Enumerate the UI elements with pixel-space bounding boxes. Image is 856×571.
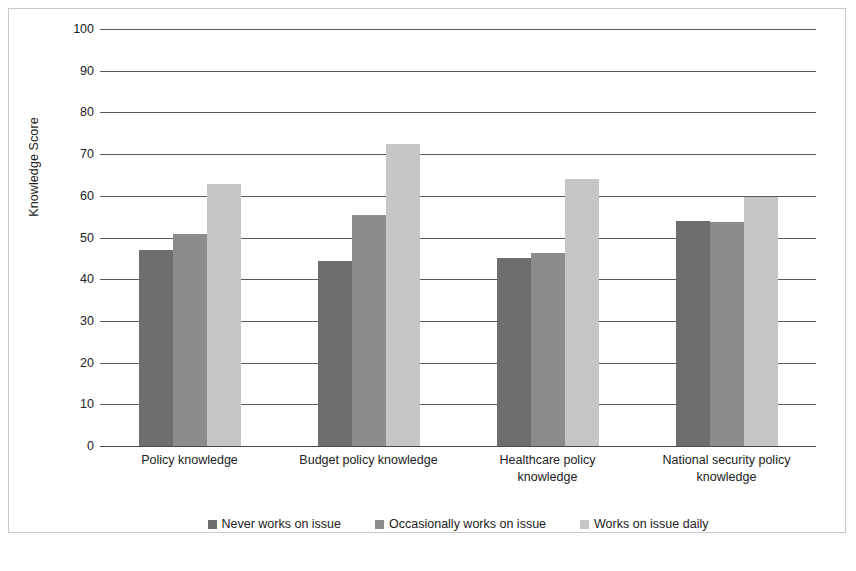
bar-group [100,29,279,446]
x-axis-label: National security policyknowledge [637,452,816,486]
x-axis-label-line: knowledge [458,469,637,486]
x-axis-label-line: Budget policy knowledge [279,452,458,469]
legend-label: Works on issue daily [594,517,708,531]
x-axis-label-line: knowledge [637,469,816,486]
legend-item[interactable]: Occasionally works on issue [375,517,546,531]
bar[interactable] [318,261,352,446]
y-tick-label-0: 0 [48,439,94,453]
legend-swatch-icon [580,520,589,529]
x-axis-label: Healthcare policyknowledge [458,452,637,486]
legend-label: Occasionally works on issue [389,517,546,531]
legend-label: Never works on issue [222,517,342,531]
y-tick-label-80: 80 [48,105,94,119]
x-axis-label-line: Policy knowledge [100,452,279,469]
x-axis-label: Budget policy knowledge [279,452,458,469]
bar-group [458,29,637,446]
y-tick-label-100: 100 [48,22,94,36]
bar[interactable] [676,221,710,446]
y-tick-label-10: 10 [48,397,94,411]
bar[interactable] [207,184,241,446]
bar[interactable] [531,253,565,446]
chart-legend: Never works on issueOccasionally works o… [100,513,816,535]
legend-swatch-icon [208,520,217,529]
legend-item[interactable]: Works on issue daily [580,517,708,531]
y-tick-label-20: 20 [48,356,94,370]
x-axis-baseline [100,446,816,447]
x-axis-label-line: National security policy [637,452,816,469]
y-axis-tick-labels: 1009080706050403020100 [36,29,94,446]
y-tick-label-50: 50 [48,231,94,245]
chart-bars [100,29,816,446]
bar[interactable] [744,197,778,446]
y-tick-label-40: 40 [48,272,94,286]
bar[interactable] [565,179,599,446]
y-tick-label-30: 30 [48,314,94,328]
x-axis-label: Policy knowledge [100,452,279,469]
bar[interactable] [710,222,744,446]
bar[interactable] [173,234,207,446]
y-tick-label-70: 70 [48,147,94,161]
x-axis-category-labels: Policy knowledgeBudget policy knowledgeH… [100,452,816,510]
bar[interactable] [139,250,173,446]
legend-item[interactable]: Never works on issue [208,517,342,531]
x-axis-label-line: Healthcare policy [458,452,637,469]
y-tick-label-90: 90 [48,64,94,78]
bar[interactable] [497,258,531,446]
bar-group [279,29,458,446]
chart-container: Knowledge Score 1009080706050403020100 P… [0,0,856,571]
bar[interactable] [386,144,420,446]
bar-group [637,29,816,446]
legend-swatch-icon [375,520,384,529]
bar[interactable] [352,215,386,446]
y-tick-label-60: 60 [48,189,94,203]
